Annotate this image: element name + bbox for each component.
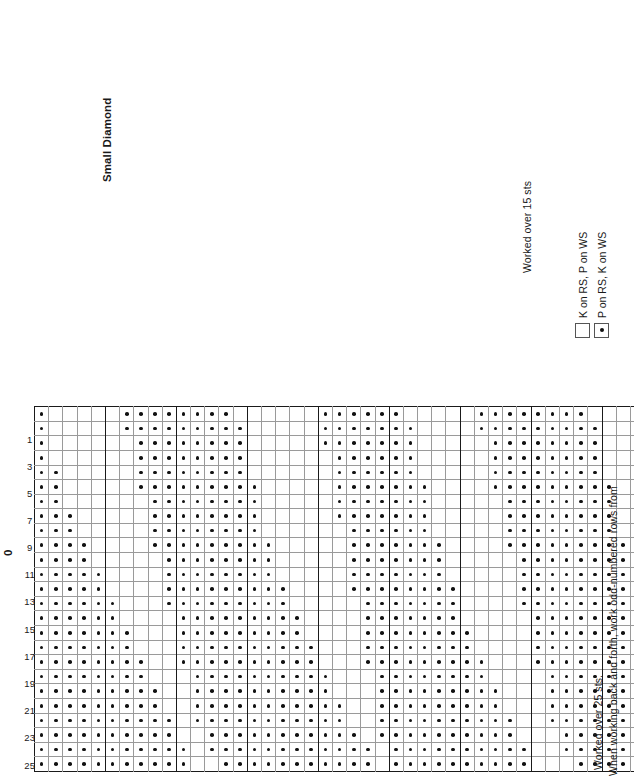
chart-cell[interactable] (318, 407, 332, 422)
chart-cell[interactable] (63, 450, 77, 465)
chart-cell[interactable] (49, 567, 63, 582)
chart-cell[interactable] (474, 494, 488, 509)
chart-cell[interactable] (375, 421, 389, 436)
chart-cell[interactable] (403, 582, 417, 597)
chart-cell[interactable] (105, 450, 119, 465)
chart-cell[interactable] (134, 523, 148, 538)
chart-cell[interactable] (318, 523, 332, 538)
chart-cell[interactable] (233, 436, 247, 451)
chart-cell[interactable] (574, 421, 588, 436)
chart-cell[interactable] (503, 567, 517, 582)
chart-cell[interactable] (148, 509, 162, 524)
chart-cell[interactable] (531, 582, 545, 597)
chart-cell[interactable] (503, 538, 517, 553)
chart-cell[interactable] (49, 523, 63, 538)
chart-cell[interactable] (63, 728, 77, 743)
chart-cell[interactable] (162, 509, 176, 524)
chart-cell[interactable] (91, 553, 105, 568)
chart-cell[interactable] (105, 626, 119, 641)
chart-cell[interactable] (432, 407, 446, 422)
chart-cell[interactable] (290, 523, 304, 538)
chart-cell[interactable] (630, 596, 634, 611)
chart-cell[interactable] (77, 436, 91, 451)
chart-cell[interactable] (290, 407, 304, 422)
chart-cell[interactable] (91, 480, 105, 495)
chart-cell[interactable] (290, 480, 304, 495)
chart-cell[interactable] (49, 699, 63, 714)
chart-cell[interactable] (489, 582, 503, 597)
chart-cell[interactable] (77, 611, 91, 626)
chart-cell[interactable] (105, 436, 119, 451)
chart-cell[interactable] (517, 421, 531, 436)
chart-cell[interactable] (176, 596, 190, 611)
chart-cell[interactable] (233, 582, 247, 597)
chart-cell[interactable] (120, 699, 134, 714)
chart-cell[interactable] (290, 553, 304, 568)
chart-cell[interactable] (630, 582, 634, 597)
chart-cell[interactable] (49, 728, 63, 743)
chart-cell[interactable] (91, 669, 105, 684)
chart-cell[interactable] (545, 553, 559, 568)
chart-cell[interactable] (418, 523, 432, 538)
chart-cell[interactable] (403, 538, 417, 553)
chart-cell[interactable] (134, 538, 148, 553)
chart-cell[interactable] (219, 494, 233, 509)
chart-cell[interactable] (630, 450, 634, 465)
chart-cell[interactable] (332, 553, 346, 568)
chart-cell[interactable] (205, 582, 219, 597)
chart-cell[interactable] (432, 436, 446, 451)
chart-cell[interactable] (134, 407, 148, 422)
chart-cell[interactable] (290, 421, 304, 436)
chart-cell[interactable] (191, 509, 205, 524)
chart-cell[interactable] (148, 480, 162, 495)
chart-cell[interactable] (105, 713, 119, 728)
chart-cell[interactable] (460, 494, 474, 509)
chart-cell[interactable] (205, 553, 219, 568)
chart-cell[interactable] (77, 655, 91, 670)
chart-cell[interactable] (134, 567, 148, 582)
chart-cell[interactable] (318, 509, 332, 524)
chart-cell[interactable] (120, 640, 134, 655)
chart-cell[interactable] (361, 465, 375, 480)
chart-cell[interactable] (134, 596, 148, 611)
chart-cell[interactable] (148, 421, 162, 436)
chart-cell[interactable] (290, 582, 304, 597)
chart-cell[interactable] (545, 421, 559, 436)
chart-cell[interactable] (176, 494, 190, 509)
chart-cell[interactable] (375, 582, 389, 597)
chart-cell[interactable] (247, 509, 261, 524)
chart-cell[interactable] (77, 553, 91, 568)
chart-cell[interactable] (318, 567, 332, 582)
chart-cell[interactable] (276, 596, 290, 611)
chart-cell[interactable] (290, 509, 304, 524)
chart-cell[interactable] (361, 523, 375, 538)
chart-cell[interactable] (517, 436, 531, 451)
chart-cell[interactable] (148, 523, 162, 538)
chart-cell[interactable] (191, 523, 205, 538)
chart-cell[interactable] (489, 450, 503, 465)
chart-cell[interactable] (418, 480, 432, 495)
chart-cell[interactable] (432, 509, 446, 524)
chart-cell[interactable] (148, 465, 162, 480)
chart-cell[interactable] (105, 407, 119, 422)
chart-cell[interactable] (120, 655, 134, 670)
chart-cell[interactable] (304, 567, 318, 582)
chart-cell[interactable] (91, 742, 105, 757)
chart-cell[interactable] (375, 567, 389, 582)
chart-cell[interactable] (134, 421, 148, 436)
chart-cell[interactable] (63, 480, 77, 495)
chart-cell[interactable] (574, 509, 588, 524)
chart-cell[interactable] (361, 480, 375, 495)
chart-cell[interactable] (375, 450, 389, 465)
chart-cell[interactable] (205, 407, 219, 422)
chart-cell[interactable] (559, 480, 573, 495)
chart-cell[interactable] (588, 436, 602, 451)
chart-cell[interactable] (247, 553, 261, 568)
chart-cell[interactable] (531, 494, 545, 509)
chart-cell[interactable] (332, 523, 346, 538)
chart-cell[interactable] (91, 713, 105, 728)
chart-cell[interactable] (262, 407, 276, 422)
chart-cell[interactable] (460, 596, 474, 611)
chart-cell[interactable] (63, 699, 77, 714)
chart-cell[interactable] (262, 465, 276, 480)
